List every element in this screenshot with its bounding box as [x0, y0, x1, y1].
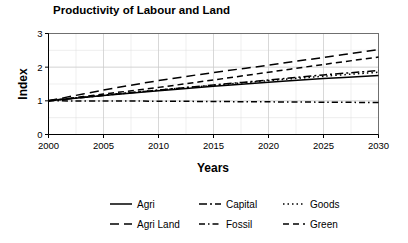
legend-label-agri: Agri — [137, 199, 155, 210]
y-axis-title: Index — [16, 68, 30, 100]
x-tick-label: 2005 — [93, 140, 114, 151]
chart-figure: Productivity of Labour and Land 0123 200… — [0, 0, 408, 243]
chart-background — [0, 0, 408, 243]
x-tick-label: 2010 — [148, 140, 169, 151]
x-axis-title: Years — [197, 161, 229, 175]
y-tick-label: 0 — [37, 129, 42, 140]
y-tick-label: 3 — [37, 28, 42, 39]
y-tick-label: 2 — [37, 62, 42, 73]
y-tick-label: 1 — [37, 95, 42, 106]
legend-label-green: Green — [310, 219, 338, 230]
x-tick-label: 2000 — [38, 140, 59, 151]
legend-label-capital: Capital — [226, 199, 257, 210]
x-tick-label: 2030 — [368, 140, 389, 151]
x-tick-label: 2015 — [203, 140, 224, 151]
x-tick-label: 2025 — [313, 140, 334, 151]
legend-label-agri-land: Agri Land — [137, 219, 180, 230]
legend-label-fossil: Fossil — [226, 219, 252, 230]
x-tick-label: 2020 — [258, 140, 279, 151]
chart-title: Productivity of Labour and Land — [53, 4, 230, 16]
legend-label-goods: Goods — [310, 199, 339, 210]
productivity-line-chart: Productivity of Labour and Land 0123 200… — [0, 0, 408, 243]
